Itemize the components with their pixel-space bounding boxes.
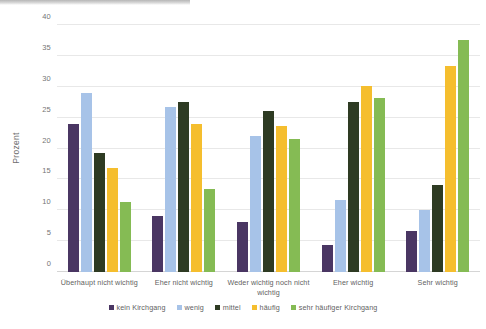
legend-label: häufig — [260, 303, 280, 312]
bar-chart: Prozent 0510152025303540 Überhaupt nicht… — [0, 0, 486, 329]
bar-group: Eher wichtig — [311, 25, 396, 272]
y-axis-tick-label: 15 — [42, 166, 51, 175]
y-axis-tick-label: 0 — [47, 259, 51, 268]
bar-group: Sehr wichtig — [395, 25, 480, 272]
legend-label: mittel — [223, 303, 241, 312]
bar[interactable] — [406, 231, 417, 272]
legend-item[interactable]: sehr häufiger Kirchgang — [291, 303, 378, 312]
y-axis-tick-label: 40 — [42, 12, 51, 21]
bar[interactable] — [445, 66, 456, 272]
bar[interactable] — [237, 222, 248, 272]
bar[interactable] — [250, 136, 261, 272]
x-axis-category-label: Überhaupt nicht wichtig — [51, 278, 147, 288]
bar[interactable] — [289, 139, 300, 272]
legend-swatch-icon — [177, 305, 182, 310]
y-axis-tick-label: 5 — [47, 228, 51, 237]
legend-swatch-icon — [109, 305, 114, 310]
y-axis-tick-label: 20 — [42, 135, 51, 144]
x-axis-category-label: Eher wichtig — [305, 278, 401, 288]
bar[interactable] — [458, 40, 469, 272]
bar[interactable] — [152, 216, 163, 272]
x-axis-category-label: Weder wichtig noch nicht wichtig — [220, 278, 316, 297]
legend-label: sehr häufiger Kirchgang — [299, 303, 378, 312]
bar[interactable] — [107, 168, 118, 272]
legend-item[interactable]: häufig — [252, 303, 280, 312]
bar[interactable] — [94, 153, 105, 272]
y-axis-tick-label: 25 — [42, 104, 51, 113]
bar[interactable] — [374, 98, 385, 272]
y-axis-tick-label: 10 — [42, 197, 51, 206]
y-axis-tick-label: 30 — [42, 73, 51, 82]
y-axis-tick-label: 35 — [42, 42, 51, 51]
bar[interactable] — [348, 102, 359, 272]
bar[interactable] — [322, 245, 333, 272]
x-axis-category-label: Sehr wichtig — [390, 278, 486, 288]
bar[interactable] — [178, 102, 189, 272]
bar[interactable] — [432, 185, 443, 272]
legend: kein Kirchgangwenigmittelhäufigsehr häuf… — [0, 303, 486, 312]
legend-label: wenig — [185, 303, 204, 312]
legend-item[interactable]: mittel — [215, 303, 241, 312]
bar[interactable] — [335, 200, 346, 272]
bar[interactable] — [68, 124, 79, 272]
bar[interactable] — [191, 124, 202, 272]
legend-swatch-icon — [252, 305, 257, 310]
y-axis-label: Prozent — [11, 132, 21, 163]
bar[interactable] — [204, 189, 215, 272]
legend-item[interactable]: kein Kirchgang — [109, 303, 166, 312]
bar[interactable] — [419, 210, 430, 272]
bar[interactable] — [165, 107, 176, 272]
bar-group: Überhaupt nicht wichtig — [57, 25, 142, 272]
x-axis-category-label: Eher nicht wichtig — [136, 278, 232, 288]
bar[interactable] — [361, 86, 372, 272]
bar-groups: Überhaupt nicht wichtigEher nicht wichti… — [57, 25, 480, 272]
bar[interactable] — [81, 93, 92, 272]
plot-area: 0510152025303540 Überhaupt nicht wichtig… — [57, 25, 480, 272]
bar-group: Weder wichtig noch nicht wichtig — [226, 25, 311, 272]
legend-swatch-icon — [215, 305, 220, 310]
bar-group: Eher nicht wichtig — [142, 25, 227, 272]
bar[interactable] — [276, 126, 287, 272]
bar[interactable] — [263, 111, 274, 272]
legend-item[interactable]: wenig — [177, 303, 204, 312]
bar[interactable] — [120, 202, 131, 272]
legend-swatch-icon — [291, 305, 296, 310]
legend-label: kein Kirchgang — [117, 303, 166, 312]
